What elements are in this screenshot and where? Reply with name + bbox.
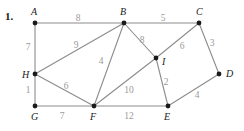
graph-edge	[168, 74, 219, 106]
graph-edge-weights: 85798631641024712	[26, 13, 215, 121]
edge-weight-label: 8	[76, 13, 81, 23]
vertex-label: C	[196, 6, 203, 17]
vertex-label: I	[161, 56, 166, 67]
edge-weight-label: 12	[124, 111, 134, 121]
graph-vertex-dot	[33, 72, 38, 77]
graph-vertex-dot	[122, 21, 127, 26]
edge-weight-label: 3	[210, 38, 215, 48]
graph-vertex-dot	[92, 104, 97, 109]
edge-weight-label: 1	[26, 85, 31, 95]
problem-figure: 1. ABCDEFGHI 85798631641024712	[0, 0, 244, 131]
edge-weight-label: 4	[99, 56, 104, 66]
graph-vertex-dot	[197, 21, 202, 26]
edge-weight-label: 5	[161, 13, 166, 23]
vertex-label: D	[225, 68, 234, 79]
graph-vertices	[33, 21, 222, 109]
edge-weight-label: 4	[195, 90, 200, 100]
edge-weight-label: 7	[26, 42, 31, 52]
graph-vertex-dot	[154, 56, 159, 61]
vertex-label: E	[163, 111, 170, 122]
edge-weight-label: 10	[124, 85, 134, 95]
edge-weight-label: 6	[64, 81, 69, 91]
graph-edge	[199, 23, 219, 74]
graph-edge	[35, 23, 124, 74]
vertex-label: A	[30, 6, 38, 17]
graph-vertex-dot	[166, 104, 171, 109]
graph-vertex-dot	[33, 104, 38, 109]
vertex-label: H	[21, 69, 30, 80]
graph-vertex-dot	[33, 21, 38, 26]
graph-vertex-dot	[217, 72, 222, 77]
vertex-label: G	[31, 111, 38, 122]
edge-weight-label: 7	[60, 111, 65, 121]
edge-weight-label: 8	[140, 35, 145, 45]
weighted-graph-diagram: ABCDEFGHI 85798631641024712	[0, 0, 244, 131]
edge-weight-label: 9	[74, 40, 79, 50]
vertex-label: F	[89, 111, 97, 122]
edge-weight-label: 2	[164, 77, 169, 87]
vertex-label: B	[120, 6, 126, 17]
graph-edge	[156, 23, 199, 58]
edge-weight-label: 6	[180, 41, 185, 51]
